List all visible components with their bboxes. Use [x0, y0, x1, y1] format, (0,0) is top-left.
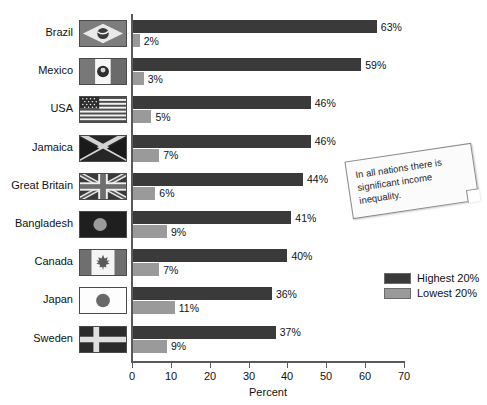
flag-brazil-icon: [79, 20, 127, 47]
bar-value-highest: 36%: [276, 288, 297, 300]
bar-value-highest: 63%: [381, 21, 402, 33]
bar-highest-20: 37%: [132, 326, 276, 339]
bar-highest-20: 63%: [132, 20, 377, 33]
x-tick: [210, 363, 211, 368]
x-tick-label: 20: [190, 370, 230, 383]
legend-swatch-highest: [384, 273, 411, 284]
bar-value-highest: 46%: [315, 135, 336, 147]
x-tick: [249, 363, 250, 368]
chart-row: Sweden37%9%: [0, 325, 487, 363]
flag-mexico-icon: [79, 58, 127, 85]
bar-value-lowest: 7%: [163, 264, 178, 276]
x-axis-line: [131, 361, 405, 363]
bar-lowest-20: 9%: [132, 225, 167, 238]
bar-highest-20: 40%: [132, 249, 287, 262]
country-label: Jamaica: [0, 141, 73, 154]
x-tick-label: 70: [384, 370, 424, 383]
country-label: Great Britain: [0, 179, 73, 192]
bar-highest-20: 46%: [132, 135, 311, 148]
flag-japan-icon: [79, 287, 127, 314]
flag-great-britain-icon: [79, 173, 127, 200]
x-tick-label: 10: [151, 370, 191, 383]
bar-highest-20: 59%: [132, 58, 361, 71]
bar-highest-20: 36%: [132, 287, 272, 300]
country-label: USA: [0, 102, 73, 115]
bar-value-lowest: 9%: [171, 226, 186, 238]
bar-value-highest: 41%: [295, 212, 316, 224]
bar-highest-20: 44%: [132, 173, 303, 186]
flag-canada-icon: [79, 249, 127, 276]
x-tick: [404, 363, 405, 368]
chart-row: Mexico59%3%: [0, 57, 487, 95]
x-tick-label: 60: [345, 370, 385, 383]
x-tick: [287, 363, 288, 368]
legend-item-lowest: Lowest 20%: [384, 284, 479, 299]
bar-lowest-20: 11%: [132, 301, 175, 314]
x-tick-label: 50: [306, 370, 346, 383]
chart-row: Brazil63%2%: [0, 19, 487, 57]
y-axis-line: [131, 14, 133, 362]
legend-item-highest: Highest 20%: [384, 269, 479, 284]
bar-value-lowest: 3%: [148, 73, 163, 85]
bar-value-highest: 44%: [307, 173, 328, 185]
x-tick: [171, 363, 172, 368]
chart-row: Bangladesh41%9%: [0, 210, 487, 248]
bar-lowest-20: 7%: [132, 263, 159, 276]
bar-highest-20: 41%: [132, 211, 291, 224]
bar-value-highest: 59%: [365, 59, 386, 71]
legend-label-lowest: Lowest 20%: [417, 287, 477, 300]
chart-legend: Highest 20% Lowest 20%: [384, 269, 479, 299]
bar-value-highest: 46%: [315, 97, 336, 109]
income-inequality-bar-chart: Brazil63%2%Mexico59%3%USA46%5%Jamaica46%…: [0, 0, 487, 405]
flag-bangladesh-icon: [79, 211, 127, 238]
bar-lowest-20: 6%: [132, 187, 155, 200]
bar-lowest-20: 9%: [132, 340, 167, 353]
bar-lowest-20: 3%: [132, 72, 144, 85]
x-axis-title: Percent: [131, 386, 405, 399]
chart-row: USA46%5%: [0, 95, 487, 133]
bar-value-highest: 40%: [291, 250, 312, 262]
country-label: Mexico: [0, 64, 73, 77]
flag-usa-icon: [79, 96, 127, 123]
flag-sweden-icon: [79, 326, 127, 353]
bar-value-lowest: 6%: [159, 187, 174, 199]
country-label: Brazil: [0, 26, 73, 39]
country-label: Sweden: [0, 332, 73, 345]
x-tick-label: 40: [267, 370, 307, 383]
x-tick-label: 0: [112, 370, 152, 383]
x-tick-label: 30: [229, 370, 269, 383]
bar-value-lowest: 9%: [171, 340, 186, 352]
bar-highest-20: 46%: [132, 96, 311, 109]
country-label: Canada: [0, 255, 73, 268]
legend-swatch-lowest: [384, 288, 411, 299]
country-label: Japan: [0, 293, 73, 306]
country-label: Bangladesh: [0, 217, 73, 230]
bar-lowest-20: 2%: [132, 34, 140, 47]
x-tick: [326, 363, 327, 368]
bar-value-highest: 37%: [280, 326, 301, 338]
bar-value-lowest: 5%: [155, 111, 170, 123]
bar-value-lowest: 7%: [163, 149, 178, 161]
x-tick: [365, 363, 366, 368]
flag-jamaica-icon: [79, 135, 127, 162]
x-tick: [132, 363, 133, 368]
bar-value-lowest: 2%: [144, 35, 159, 47]
bar-value-lowest: 11%: [179, 302, 199, 314]
bar-lowest-20: 7%: [132, 149, 159, 162]
bar-lowest-20: 5%: [132, 110, 151, 123]
